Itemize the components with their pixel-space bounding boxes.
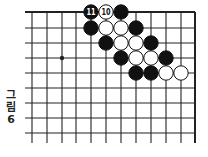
star-point (60, 56, 64, 60)
black-stone (159, 51, 173, 65)
white-stone (114, 36, 128, 50)
white-stone (129, 36, 143, 50)
caption-char: 6 (3, 114, 19, 126)
black-stone (129, 21, 143, 35)
white-stone (174, 66, 188, 80)
go-board: 1110 (0, 0, 208, 157)
black-stone (84, 21, 98, 35)
black-stone (144, 36, 158, 50)
white-stone (99, 21, 113, 35)
black-stone (129, 66, 143, 80)
black-stone: 11 (84, 5, 98, 19)
white-stone (159, 66, 173, 80)
black-stone (144, 66, 158, 80)
star-points (60, 56, 64, 60)
white-stone (114, 21, 128, 35)
black-stone (99, 36, 113, 50)
white-stone (129, 51, 143, 65)
black-stone (114, 5, 128, 19)
white-stone (144, 51, 158, 65)
black-stone (114, 51, 128, 65)
white-stone: 10 (99, 5, 113, 19)
move-number: 11 (87, 7, 96, 17)
move-number: 10 (102, 7, 111, 17)
figure-caption: 그 림 6 (3, 90, 19, 126)
